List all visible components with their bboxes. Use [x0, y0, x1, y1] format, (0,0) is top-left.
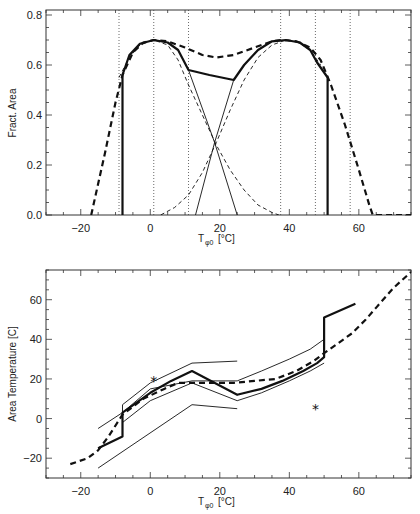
top-x-axis-title: T φ0 [°C] — [198, 233, 235, 247]
series-line — [91, 40, 411, 215]
series-line — [119, 40, 279, 215]
y-tick-label: 0.2 — [27, 159, 42, 171]
asterisk-marker: * — [312, 401, 319, 417]
series-line — [98, 304, 355, 449]
asterisk-marker: * — [150, 373, 157, 389]
x-tick-label: −20 — [71, 222, 90, 234]
x-tick-label: 40 — [283, 485, 295, 497]
x-tick-label: 60 — [353, 222, 365, 234]
x-tick-label: 40 — [283, 222, 295, 234]
y-tick-label: 60 — [30, 294, 42, 306]
bottom-y-axis-title: Area Temperature [C] — [7, 326, 18, 422]
x-tick-label: 0 — [147, 485, 153, 497]
series-line — [161, 40, 321, 215]
plot-frame — [46, 10, 411, 215]
y-tick-label: −20 — [23, 452, 42, 464]
x-tick-label: −20 — [71, 485, 90, 497]
top-chart-fraction-area: −2002040600.00.20.40.60.8 — [27, 9, 411, 234]
y-tick-label: 0.4 — [27, 109, 42, 121]
top-x-axis-title-sub: φ0 — [205, 239, 214, 247]
bottom-chart-area-temperature: −200204060−200204060** — [23, 270, 411, 497]
y-tick-label: 0.8 — [27, 9, 42, 21]
top-y-axis-title: Fract. Area — [7, 88, 18, 137]
y-tick-label: 0 — [36, 413, 42, 425]
y-tick-label: 0.0 — [27, 209, 42, 221]
x-tick-label: 0 — [147, 222, 153, 234]
y-tick-label: 20 — [30, 373, 42, 385]
series-line — [123, 40, 328, 215]
bottom-x-axis-title-unit: [°C] — [218, 496, 235, 507]
plot-area: ** — [70, 272, 411, 468]
bottom-x-axis-title-main: T — [198, 496, 204, 507]
y-tick-label: 40 — [30, 333, 42, 345]
x-tick-label: 60 — [353, 485, 365, 497]
series-line — [98, 405, 237, 468]
plot-area — [91, 10, 411, 215]
y-tick-label: 0.6 — [27, 59, 42, 71]
top-x-axis-title-unit: [°C] — [218, 233, 235, 244]
top-x-axis-title-main: T — [198, 233, 204, 244]
figure: −2002040600.00.20.40.60.8 −200204060−200… — [0, 0, 420, 514]
bottom-x-axis-title-sub: φ0 — [205, 502, 214, 510]
series-line — [196, 80, 234, 215]
bottom-x-axis-title: T φ0 [°C] — [198, 496, 235, 510]
